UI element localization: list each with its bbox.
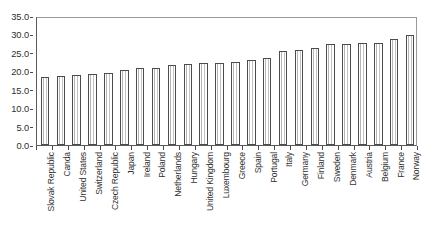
y-tick-mark <box>30 53 33 54</box>
x-axis-ticks <box>36 146 417 151</box>
x-tick-label-text: Greece <box>238 152 247 179</box>
x-tick-label-text: Czech Republic <box>111 152 120 210</box>
bar <box>168 65 176 145</box>
x-tick-label: Sweden <box>333 152 342 182</box>
y-tick-label: 10.0 <box>11 105 29 114</box>
bar <box>390 39 398 145</box>
bar <box>311 48 319 145</box>
y-tick-mark <box>30 146 33 147</box>
x-tick-mark <box>306 146 307 150</box>
x-tick-label: Canda <box>63 152 72 177</box>
x-tick-label: Slovak Republic <box>47 152 56 211</box>
x-tick-label-text: Italy <box>285 152 294 167</box>
x-tick-label: Italy <box>285 152 294 167</box>
x-tick-label-text: Switzerland <box>95 152 104 195</box>
x-tick-mark <box>290 146 291 150</box>
x-tick-label: Austria <box>365 152 374 178</box>
x-tick-label: Ireland <box>143 152 152 177</box>
bar <box>120 70 128 145</box>
x-tick-mark <box>258 146 259 150</box>
x-tick-label-text: Ireland <box>143 152 152 177</box>
bar <box>72 75 80 145</box>
x-tick-label-text: Portugal <box>270 152 279 183</box>
y-axis: 0.05.010.015.020.025.030.035.0 <box>0 0 33 240</box>
x-tick-label-text: Austria <box>365 152 374 178</box>
y-tick-label: 0.0 <box>16 142 29 151</box>
x-tick-mark <box>417 146 418 150</box>
x-tick-mark <box>242 146 243 150</box>
bar <box>199 63 207 145</box>
y-tick-label: 35.0 <box>11 13 29 22</box>
x-tick-label: Netherlands <box>174 152 183 197</box>
x-tick-mark <box>52 146 53 150</box>
x-tick-label-text: Japan <box>127 152 136 175</box>
x-tick-mark <box>163 146 164 150</box>
x-tick-label: United States <box>79 152 88 202</box>
y-tick-label: 30.0 <box>11 31 29 40</box>
x-tick-mark <box>211 146 212 150</box>
x-tick-label: Spain <box>254 152 263 173</box>
x-tick-label-text: Sweden <box>333 152 342 182</box>
x-tick-mark <box>36 146 37 150</box>
x-tick-mark <box>338 146 339 150</box>
x-tick-mark <box>147 146 148 150</box>
x-tick-label-text: Luxembourg <box>222 152 231 198</box>
bar <box>263 58 271 145</box>
x-tick-mark <box>115 146 116 150</box>
x-tick-label-text: Germany <box>301 152 310 186</box>
bar-chart-figure: 0.05.010.015.020.025.030.035.0 Slovak Re… <box>0 0 424 240</box>
x-tick-label-text: France <box>397 152 406 178</box>
x-tick-label: Czech Republic <box>111 152 120 210</box>
x-tick-mark <box>322 146 323 150</box>
bar <box>184 64 192 145</box>
bar <box>152 68 160 145</box>
bar <box>279 51 287 145</box>
bar <box>342 44 350 145</box>
x-tick-mark <box>131 146 132 150</box>
bar <box>326 44 334 145</box>
bar <box>295 50 303 145</box>
y-tick-mark <box>30 17 33 18</box>
x-tick-mark <box>84 146 85 150</box>
x-tick-label-text: Denmark <box>349 152 358 186</box>
x-tick-mark <box>385 146 386 150</box>
x-tick-label-text: Hungary <box>190 152 199 183</box>
y-tick-mark <box>30 109 33 110</box>
x-tick-label-text: Netherlands <box>174 152 183 197</box>
x-tick-mark <box>401 146 402 150</box>
x-tick-mark <box>274 146 275 150</box>
y-tick-label: 20.0 <box>11 68 29 77</box>
x-tick-mark <box>100 146 101 150</box>
x-tick-label-text: Slovak Republic <box>47 152 56 211</box>
x-tick-label: Greece <box>238 152 247 179</box>
x-tick-label-text: United States <box>79 152 88 202</box>
x-tick-mark <box>354 146 355 150</box>
bar <box>104 73 112 145</box>
x-axis-labels: Slovak RepublicCandaUnited StatesSwitzer… <box>36 152 417 240</box>
y-tick-mark <box>30 35 33 36</box>
x-tick-label-text: Spain <box>254 152 263 173</box>
bar <box>136 68 144 145</box>
bar <box>374 43 382 145</box>
x-tick-label: Hungary <box>190 152 199 183</box>
x-tick-label-text: Norway <box>412 152 421 180</box>
bars-container <box>37 18 416 145</box>
bar <box>247 60 255 146</box>
x-tick-label-text: Poland <box>158 152 167 178</box>
x-tick-label: Norway <box>412 152 421 180</box>
y-tick-mark <box>30 90 33 91</box>
x-tick-label-text: Belgium <box>381 152 390 182</box>
bar <box>358 43 366 145</box>
bar <box>88 74 96 145</box>
x-tick-label: Poland <box>158 152 167 178</box>
x-tick-label: United Kingdom <box>206 152 215 211</box>
x-tick-label: Japan <box>127 152 136 175</box>
plot-area <box>36 17 417 146</box>
x-tick-label: Luxembourg <box>222 152 231 198</box>
y-tick-mark <box>30 72 33 73</box>
x-tick-label: Germany <box>301 152 310 186</box>
x-tick-label: Belgium <box>381 152 390 182</box>
x-tick-mark <box>195 146 196 150</box>
bar <box>215 63 223 145</box>
y-tick-label: 5.0 <box>16 123 29 132</box>
